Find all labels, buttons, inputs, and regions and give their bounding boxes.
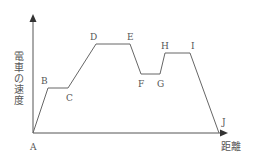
point-label-j: J xyxy=(221,117,226,127)
point-label-d: D xyxy=(90,32,97,42)
point-label-b: B xyxy=(41,76,48,86)
point-label-a: A xyxy=(29,142,37,152)
y-axis-label-char: 車 xyxy=(14,61,24,73)
y-axis-label-char: 電 xyxy=(14,51,24,62)
y-axis-label-char: 速 xyxy=(14,84,24,95)
speed-distance-diagram: A B C D E F G H I J 電 車 の 速 度 距離 xyxy=(0,0,257,161)
x-axis-arrow-icon xyxy=(220,130,228,137)
point-label-e: E xyxy=(127,32,134,42)
x-axis-label: 距離 xyxy=(221,140,241,152)
speed-profile-line xyxy=(33,44,219,133)
point-label-i: I xyxy=(191,41,195,51)
point-label-f: F xyxy=(138,79,144,89)
point-label-h: H xyxy=(161,41,169,51)
point-label-g: G xyxy=(157,79,164,89)
y-axis-label-char: 度 xyxy=(14,94,24,106)
y-axis-label-char: の xyxy=(14,73,24,84)
point-label-c: C xyxy=(66,93,73,103)
y-axis-arrow-icon xyxy=(30,14,37,22)
y-axis-label: 電 車 の 速 度 xyxy=(14,51,24,106)
